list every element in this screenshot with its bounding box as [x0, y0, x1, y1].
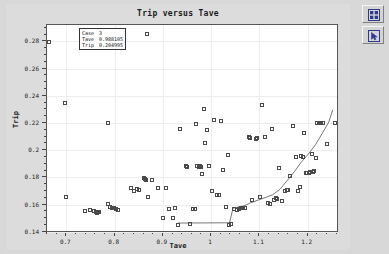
data-point[interactable] [229, 222, 233, 226]
data-point[interactable] [302, 131, 306, 135]
case-info-tooltip: Case3Tave0.988105Trip0.204995 [79, 28, 126, 50]
y-axis-tick-label: 0.16 [6, 200, 39, 207]
data-point[interactable] [298, 185, 302, 189]
data-point[interactable] [275, 197, 279, 201]
data-point[interactable] [161, 216, 165, 220]
data-point[interactable] [202, 107, 206, 111]
data-point[interactable] [185, 165, 189, 169]
data-point[interactable] [260, 103, 264, 107]
data-point[interactable] [194, 122, 198, 126]
data-point[interactable] [178, 127, 182, 131]
y-axis-tick-label: 0.26 [6, 64, 39, 71]
data-point[interactable] [47, 40, 51, 44]
data-point[interactable] [301, 155, 305, 159]
data-point[interactable] [224, 205, 228, 209]
data-point[interactable] [325, 142, 329, 146]
data-point[interactable] [314, 156, 318, 160]
x-axis-tick [307, 232, 308, 236]
data-point[interactable] [217, 193, 221, 197]
x-axis-tick-label: 1.1 [253, 238, 264, 245]
info-row: Trip0.204995 [82, 42, 123, 48]
chart-card: Trip versus Tave Trip Tave 0.140.160.180… [6, 4, 350, 250]
y-axis-tick-label: 0.22 [6, 118, 39, 125]
data-point[interactable] [156, 186, 160, 190]
data-point[interactable] [173, 206, 177, 210]
data-point[interactable] [116, 208, 120, 212]
data-point[interactable] [144, 178, 148, 182]
data-point[interactable] [243, 206, 247, 210]
data-point[interactable] [277, 166, 281, 170]
data-point[interactable] [288, 174, 292, 178]
data-point[interactable] [255, 136, 259, 140]
data-point[interactable] [291, 124, 295, 128]
data-point[interactable] [106, 121, 110, 125]
data-point[interactable] [312, 169, 316, 173]
x-axis-tick-label: 1 [208, 238, 212, 245]
data-point[interactable] [199, 165, 203, 169]
x-axis-tick-label: 0.9 [156, 238, 167, 245]
data-point[interactable] [296, 189, 300, 193]
data-point[interactable] [212, 118, 216, 122]
y-axis-tick-label: 0.2 [6, 146, 39, 153]
y-axis-tick-label: 0.18 [6, 173, 39, 180]
data-point[interactable] [203, 141, 207, 145]
page-title: Trip versus Tave [6, 9, 350, 18]
info-key: Trip [82, 42, 99, 48]
y-axis-tick-label: 0.14 [6, 227, 39, 234]
gridline-horizontal [47, 232, 337, 233]
data-point[interactable] [248, 136, 252, 140]
x-axis-tick [65, 232, 66, 236]
data-point[interactable] [221, 168, 225, 172]
toolbar [362, 5, 386, 47]
plot-area[interactable] [46, 24, 338, 232]
data-point[interactable] [219, 119, 223, 123]
y-axis-tick-label: 0.28 [6, 37, 39, 44]
x-axis-tick [162, 232, 163, 236]
data-point[interactable] [188, 222, 192, 226]
data-point[interactable] [145, 32, 149, 36]
data-point[interactable] [150, 178, 154, 182]
data-point[interactable] [176, 223, 180, 227]
data-point[interactable] [226, 153, 230, 157]
x-axis-tick-label: 0.7 [60, 238, 71, 245]
data-point[interactable] [193, 207, 197, 211]
plot-window: Trip versus Tave Trip Tave 0.140.160.180… [0, 0, 389, 254]
x-axis-tick-label: 1.2 [301, 238, 312, 245]
data-point[interactable] [146, 195, 150, 199]
data-point[interactable] [207, 164, 211, 168]
data-point[interactable] [83, 209, 87, 213]
data-point[interactable] [268, 202, 272, 206]
y-axis-tick-label: 0.24 [6, 91, 39, 98]
data-point[interactable] [250, 198, 254, 202]
data-point[interactable] [167, 207, 171, 211]
data-point[interactable] [164, 186, 168, 190]
data-point[interactable] [333, 121, 337, 125]
tile-windows-icon[interactable] [362, 5, 384, 23]
x-axis-tick [258, 232, 259, 236]
pointer-tool-icon[interactable] [362, 26, 384, 44]
data-point[interactable] [137, 188, 141, 192]
info-value: 0.204995 [99, 42, 123, 48]
data-point[interactable] [64, 195, 68, 199]
data-point[interactable] [294, 155, 298, 159]
data-point[interactable] [286, 188, 290, 192]
data-point[interactable] [270, 127, 274, 131]
data-point[interactable] [210, 189, 214, 193]
x-axis-label: Tave [6, 242, 350, 250]
x-axis-tick [210, 232, 211, 236]
data-point[interactable] [263, 135, 267, 139]
data-point[interactable] [200, 172, 204, 176]
data-point[interactable] [280, 199, 284, 203]
data-point[interactable] [321, 121, 325, 125]
data-point[interactable] [258, 195, 262, 199]
data-point[interactable] [171, 216, 175, 220]
data-point[interactable] [97, 210, 101, 214]
data-point[interactable] [205, 128, 209, 132]
x-axis-tick [114, 232, 115, 236]
x-axis-tick-label: 0.8 [108, 238, 119, 245]
data-point[interactable] [63, 101, 67, 105]
